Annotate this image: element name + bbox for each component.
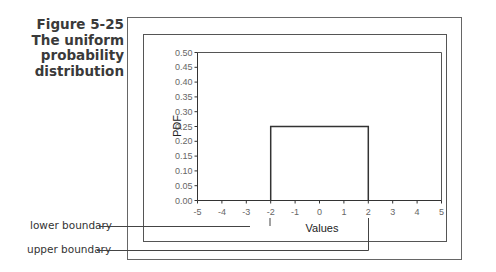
pdf-line [271, 127, 369, 201]
x-tick-label: 0 [317, 207, 322, 217]
y-tick-label: 0.05 [175, 181, 193, 191]
x-axis: -5-4-3-2-1012345 [193, 201, 444, 217]
x-tick-label: 1 [341, 207, 346, 217]
y-tick-label: 0.45 [175, 62, 193, 72]
uniform-distribution-chart: 0.000.050.100.150.200.250.300.350.400.45… [0, 0, 496, 272]
y-tick-label: 0.10 [175, 166, 193, 176]
x-tick-label: -5 [193, 207, 201, 217]
pdf-series [271, 127, 369, 201]
y-tick-label: 0.50 [175, 48, 193, 58]
y-axis-title: PDF [171, 115, 183, 137]
y-tick-label: 0.15 [175, 151, 193, 161]
y-tick-label: 0.00 [175, 196, 193, 206]
x-tick-label: -1 [291, 207, 299, 217]
lower-boundary-callout [99, 218, 270, 227]
x-axis-title: Values [306, 222, 339, 234]
x-tick-label: -3 [242, 207, 250, 217]
x-tick-label: -2 [267, 207, 275, 217]
x-tick-label: 5 [439, 207, 444, 217]
x-tick-label: 3 [390, 207, 395, 217]
y-tick-label: 0.40 [175, 77, 193, 87]
x-tick-label: -4 [218, 207, 226, 217]
y-tick-label: 0.35 [175, 92, 193, 102]
x-tick-label: 2 [366, 207, 371, 217]
x-tick-label: 4 [415, 207, 420, 217]
